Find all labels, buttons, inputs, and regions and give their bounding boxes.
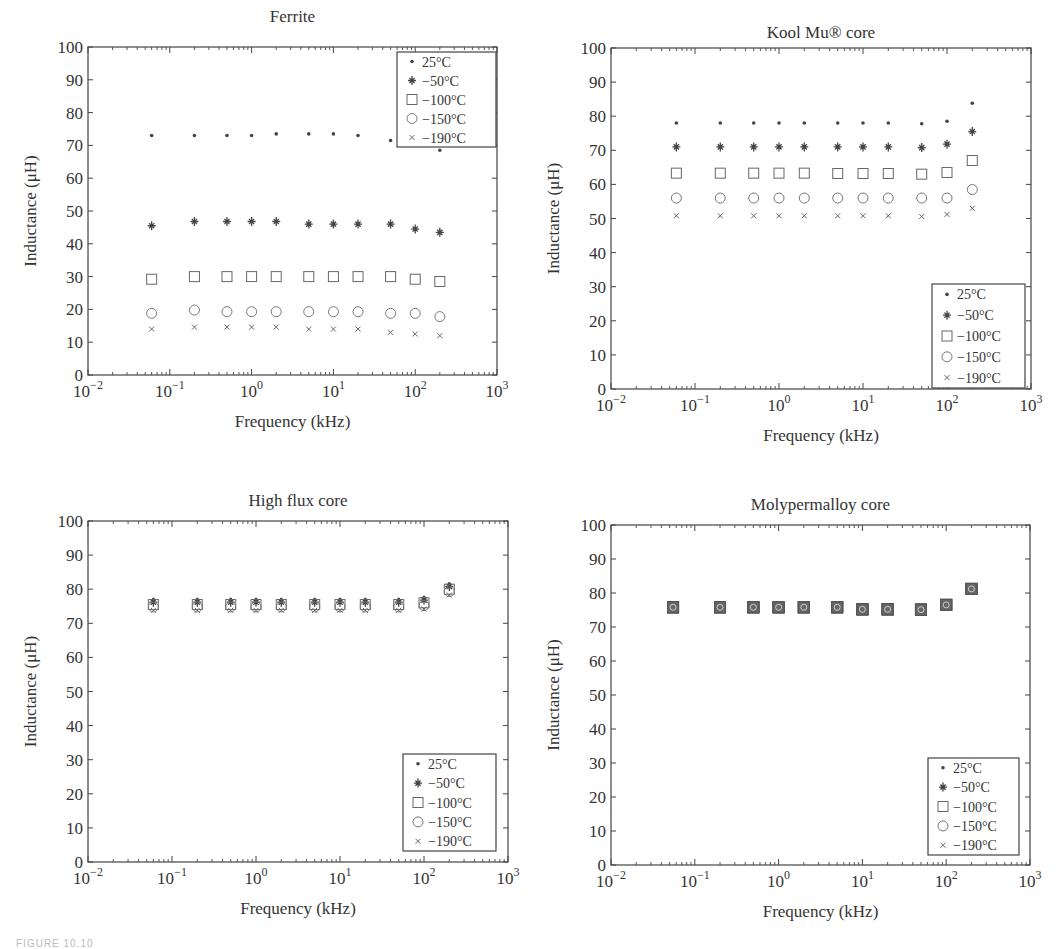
y-tick-label: 30 [589,754,606,773]
legend-label: −190°C [953,838,997,853]
legend-label: −100°C [953,800,997,815]
x-tick-label: 10−1 [680,868,710,891]
y-tick-label: 40 [589,720,606,739]
data-points [668,583,977,615]
figure-caption: FIGURE 10.10 [16,938,94,949]
chart-title: Molypermalloy core [751,495,890,514]
y-tick-label: 80 [589,584,606,603]
y-tick-label: 60 [589,652,606,671]
legend-label: −150°C [953,819,997,834]
x-tick-label: 102 [935,868,958,891]
y-tick-label: 90 [589,550,606,569]
legend-label: −50°C [953,780,990,795]
x-tick-label: 100 [767,868,790,891]
x-tick-label: 101 [851,868,874,891]
y-tick-label: 20 [589,788,606,807]
series [668,583,977,615]
legend-marker [941,766,945,770]
x-tick-label: 103 [1019,868,1042,891]
series [668,583,977,615]
x-axis-label: Frequency (kHz) [763,902,879,921]
y-tick-label: 50 [589,686,606,705]
y-tick-label: 100 [581,516,607,535]
y-tick-label: 10 [589,822,606,841]
series [668,583,977,615]
legend: 25°C−50°C−100°C−150°C−190°C [928,758,1019,855]
series [668,583,977,615]
series [668,583,977,615]
y-tick-label: 70 [589,618,606,637]
y-axis-label: Inductance (μH) [544,639,563,751]
x-tick-label: 10−2 [596,868,626,891]
legend-label: 25°C [953,761,982,776]
